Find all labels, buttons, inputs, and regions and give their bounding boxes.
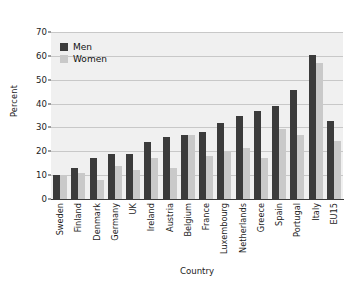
bar-women-sweden	[60, 175, 67, 199]
bar-group	[142, 32, 160, 199]
bar-men-denmark	[90, 158, 97, 199]
x-axis-tick-label: Ireland	[146, 203, 156, 231]
bar-men-spain	[272, 106, 279, 199]
bar-men-uk	[126, 154, 133, 199]
bar-group	[288, 32, 306, 199]
x-axis-tick-label: Italy	[311, 203, 321, 221]
x-axis-tick-label-cell: Germany	[106, 201, 124, 259]
bar-group	[161, 32, 179, 199]
x-axis-tick-label: France	[201, 203, 211, 230]
x-axis-tick-label-cell: Sweden	[51, 201, 69, 259]
bar-group	[270, 32, 288, 199]
x-axis-tick-label-cell: France	[197, 201, 215, 259]
bar-men-belgium	[181, 135, 188, 199]
bar-men-sweden	[53, 175, 60, 199]
x-axis-tick-label: Germany	[110, 203, 120, 241]
y-axis-title: Percent	[9, 61, 19, 141]
x-axis-tick-label-cell: Italy	[307, 201, 325, 259]
bar-men-portugal	[290, 90, 297, 199]
x-axis-tick-label: Spain	[274, 203, 284, 226]
legend-item-men: Men	[60, 42, 107, 52]
bar-group	[215, 32, 233, 199]
x-axis-tick-label: Sweden	[55, 203, 65, 235]
bar-group	[197, 32, 215, 199]
x-axis-tick-label: Austria	[165, 203, 175, 232]
bar-group	[179, 32, 197, 199]
bar-women-greece	[261, 158, 268, 199]
bar-men-italy	[309, 55, 316, 199]
x-axis-tick-label-cell: Denmark	[88, 201, 106, 259]
bar-men-eu15	[327, 121, 334, 199]
x-axis-title: Country	[51, 266, 343, 276]
x-axis-tick-label: EU15	[329, 203, 339, 225]
bar-men-greece	[254, 111, 261, 199]
bar-men-netherlands	[236, 116, 243, 200]
bar-group	[252, 32, 270, 199]
x-axis-tick-label: Finland	[73, 203, 83, 232]
bar-women-eu15	[334, 141, 341, 199]
bar-women-portugal	[297, 135, 304, 199]
x-axis-tick-label-cell: Greece	[252, 201, 270, 259]
bar-women-italy	[316, 63, 323, 199]
x-axis-tick-label: UK	[128, 203, 138, 214]
legend-swatch-men-icon	[60, 43, 68, 51]
bar-women-luxembourg	[224, 151, 231, 199]
bar-women-austria	[170, 168, 177, 199]
x-axis-tick-label-cell: Finland	[69, 201, 87, 259]
legend-swatch-women-icon	[60, 55, 68, 63]
x-axis-tick-label-cell: UK	[124, 201, 142, 259]
bar-chart: Percent 010203040506070 Men Women Sweden…	[0, 0, 358, 286]
x-axis-tick-label: Luxembourg	[219, 203, 229, 254]
bar-women-germany	[115, 166, 122, 199]
x-axis-tick-label: Netherlands	[238, 203, 248, 253]
x-axis-tick-label: Greece	[256, 203, 266, 232]
bar-women-uk	[133, 170, 140, 199]
bar-men-finland	[71, 168, 78, 199]
x-axis-tick-label: Denmark	[92, 203, 102, 241]
x-axis-tick-label-cell: Luxembourg	[215, 201, 233, 259]
bar-women-ireland	[151, 158, 158, 199]
legend-label-women: Women	[73, 54, 107, 64]
bar-women-finland	[78, 173, 85, 199]
x-axis-tick-label-cell: Austria	[161, 201, 179, 259]
x-axis-tick-label-cell: Portugal	[288, 201, 306, 259]
bar-men-germany	[108, 154, 115, 199]
bar-men-austria	[163, 137, 170, 199]
bar-group	[234, 32, 252, 199]
bar-group	[106, 32, 124, 199]
bar-group	[325, 32, 343, 199]
x-axis-tick-label: Portugal	[292, 203, 302, 237]
bar-men-france	[199, 132, 206, 199]
bar-group	[124, 32, 142, 199]
legend-label-men: Men	[73, 42, 92, 52]
x-axis-tick-label-cell: Ireland	[142, 201, 160, 259]
x-axis-tick-label-cell: Belgium	[179, 201, 197, 259]
x-axis-tick-label-cell: Spain	[270, 201, 288, 259]
legend-item-women: Women	[60, 54, 107, 64]
bar-group	[307, 32, 325, 199]
x-axis-tick-label-cell: Netherlands	[234, 201, 252, 259]
legend: Men Women	[60, 42, 107, 66]
x-axis-tick-label: Belgium	[183, 203, 193, 237]
bar-women-denmark	[97, 180, 104, 199]
x-axis-tick-label-cell: EU15	[325, 201, 343, 259]
x-axis-tick-labels: SwedenFinlandDenmarkGermanyUKIrelandAust…	[51, 201, 343, 259]
bar-women-spain	[279, 129, 286, 199]
x-axis-line	[51, 199, 344, 200]
bar-men-luxembourg	[217, 123, 224, 199]
bar-men-ireland	[144, 142, 151, 199]
bar-women-netherlands	[243, 148, 250, 199]
bar-women-belgium	[188, 135, 195, 199]
bar-women-france	[206, 156, 213, 199]
